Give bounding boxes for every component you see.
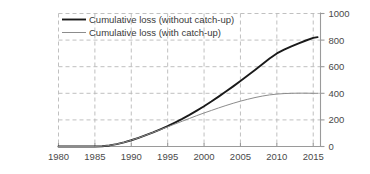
y-tick-label: 1000 bbox=[329, 8, 350, 19]
y-tick-label: 800 bbox=[329, 35, 345, 46]
line-chart: 19801985199019952000200520102015 0200400… bbox=[0, 0, 370, 174]
legend-label-0: Cumulative loss (without catch-up) bbox=[89, 14, 234, 25]
x-tick-label: 1980 bbox=[48, 151, 69, 162]
x-tick-label: 2010 bbox=[266, 151, 287, 162]
chart-container: 19801985199019952000200520102015 0200400… bbox=[0, 0, 370, 174]
x-tick-label: 2005 bbox=[230, 151, 251, 162]
y-tick-label: 400 bbox=[329, 88, 345, 99]
x-tick-label: 2015 bbox=[303, 151, 324, 162]
y-tick-label: 0 bbox=[329, 141, 334, 152]
y-tick-label: 600 bbox=[329, 61, 345, 72]
y-tick-label: 200 bbox=[329, 114, 345, 125]
x-tick-label: 2000 bbox=[193, 151, 214, 162]
legend-label-1: Cumulative loss (with catch-up) bbox=[89, 27, 221, 38]
x-tick-label: 1990 bbox=[121, 151, 142, 162]
x-tick-label: 1995 bbox=[157, 151, 178, 162]
x-tick-label: 1985 bbox=[84, 151, 105, 162]
